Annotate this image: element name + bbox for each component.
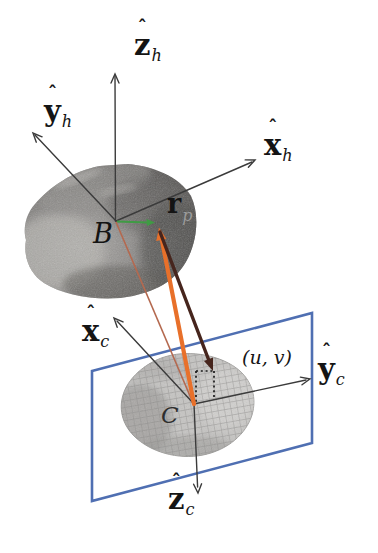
asteroid-shading xyxy=(10,150,216,310)
diagram-canvas xyxy=(0,0,378,553)
r-p-vector xyxy=(117,222,148,223)
asteroid-body xyxy=(10,150,216,310)
geometry-diagram: ˆzh ˆyh ˆxh ˆxc ˆyc ˆzc rp B C (u, v) xyxy=(0,0,378,553)
z-h-axis xyxy=(115,76,116,221)
